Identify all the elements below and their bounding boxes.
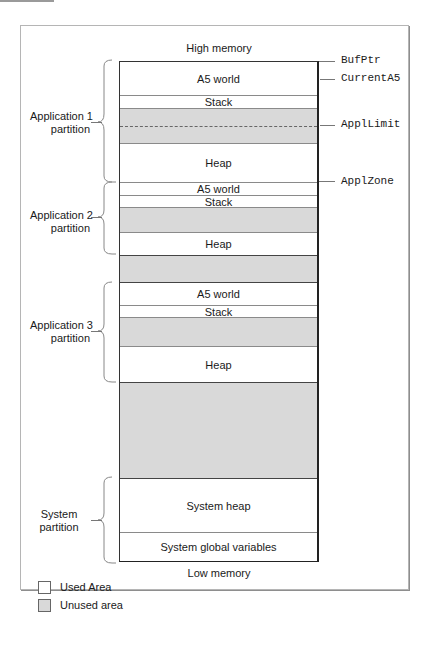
partition-label-app2: Application 2 partition	[30, 209, 90, 235]
segment-app3-a5-world: A5 world	[120, 282, 317, 305]
segment-app1-unused	[120, 108, 317, 143]
page-top-rule	[0, 0, 54, 2]
partition-label-line: partition	[30, 521, 88, 534]
brace-system-tick	[91, 520, 102, 521]
pointer-applzone: ApplZone	[341, 175, 394, 187]
segment-app3-heap: Heap	[120, 346, 317, 382]
segment-system-heap: System heap	[120, 478, 317, 532]
high-memory-label: High memory	[119, 42, 319, 54]
pointer-bufptr: BufPtr	[341, 54, 381, 66]
segment-label: A5 world	[197, 73, 240, 85]
segment-label: A5 world	[197, 288, 240, 300]
segment-free-between-app2-app3	[120, 255, 317, 282]
segment-label: Stack	[205, 196, 233, 208]
currenta5-leader	[320, 79, 335, 80]
memory-map-column: A5 world Stack Heap A5 world Stack Heap …	[119, 61, 319, 562]
bufptr-leader	[319, 61, 335, 62]
segment-label: A5 world	[197, 183, 240, 195]
segment-app3-unused	[120, 317, 317, 346]
segment-label: Stack	[205, 306, 233, 318]
legend-label-used: Used Area	[60, 581, 111, 593]
segment-app1-heap: Heap	[120, 143, 317, 182]
brace-app2	[98, 180, 118, 256]
partition-label-system: System partition	[30, 508, 88, 534]
partition-label-line: Application 3	[30, 319, 90, 332]
segment-app2-a5-world: A5 world	[120, 182, 317, 195]
segment-label: Heap	[205, 359, 231, 371]
pointer-currenta5: CurrentA5	[341, 72, 400, 84]
partition-label-line: partition	[30, 222, 90, 235]
segment-app2-stack: Stack	[120, 195, 317, 207]
segment-app1-stack: Stack	[120, 95, 317, 108]
partition-label-app1: Application 1 partition	[30, 110, 90, 136]
appllimit-dashed-line	[120, 126, 317, 127]
brace-app1-tick	[91, 122, 102, 123]
segment-label: Stack	[205, 96, 233, 108]
segment-label: System global variables	[160, 541, 276, 553]
segment-free-above-system	[120, 382, 317, 478]
pointer-appllimit: ApplLimit	[341, 118, 400, 130]
partition-label-line: Application 2	[30, 209, 90, 222]
brace-app3-tick	[91, 331, 102, 332]
legend-label-unused: Unused area	[60, 599, 123, 611]
partition-label-line: partition	[30, 332, 90, 345]
segment-app2-unused	[120, 207, 317, 232]
low-memory-label: Low memory	[119, 567, 319, 579]
segment-label: Heap	[205, 238, 231, 250]
partition-label-line: Application 1	[30, 110, 90, 123]
appllimit-leader	[320, 125, 335, 126]
segment-app1-a5-world: A5 world	[120, 62, 317, 95]
segment-app3-stack: Stack	[120, 305, 317, 317]
segment-label: System heap	[186, 500, 250, 512]
applzone-leader	[319, 181, 335, 182]
partition-label-app3: Application 3 partition	[30, 319, 90, 345]
legend-swatch-unused	[38, 599, 51, 612]
legend-swatch-used	[38, 581, 51, 594]
segment-app2-heap: Heap	[120, 232, 317, 255]
segment-system-globals: System global variables	[120, 532, 317, 561]
segment-label: Heap	[205, 157, 231, 169]
partition-label-line: partition	[30, 123, 90, 136]
partition-label-line: System	[30, 508, 88, 521]
brace-app3	[98, 280, 118, 384]
